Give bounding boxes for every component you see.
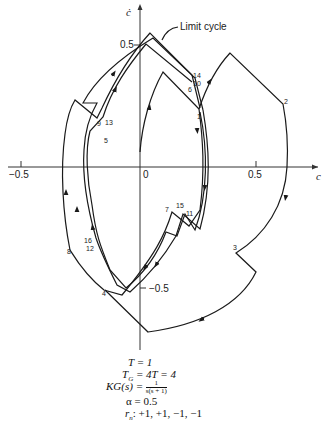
arrow-icon <box>93 227 94 230</box>
callout-leader-line <box>162 27 178 40</box>
point-label-14: 14 <box>193 72 201 79</box>
trajectory-start <box>140 72 199 152</box>
point-label-7: 7 <box>165 206 169 213</box>
y-tick-neg-0-5: −0.5 <box>149 283 169 294</box>
x-tick-neg-0-5: −0.5 <box>9 169 29 180</box>
point-label-2: 2 <box>284 98 288 105</box>
point-label-11: 11 <box>186 210 193 217</box>
y-tick-0-5: 0.5 <box>120 39 134 50</box>
trajectory-cycle-c <box>83 38 208 292</box>
point-label-6: 6 <box>188 86 192 93</box>
param-alpha: α = 0.5 <box>126 395 157 407</box>
y-axis-label: ċ <box>126 6 131 18</box>
param-T: T = 1 <box>128 356 152 368</box>
point-label-5: 5 <box>104 137 108 144</box>
arrow-icon <box>149 107 150 110</box>
x-axis-label: c <box>316 170 321 182</box>
point-label-9: 9 <box>97 120 101 127</box>
arrow-icon <box>112 73 114 76</box>
axes <box>8 4 318 350</box>
y-axis-arrow-icon <box>138 4 143 10</box>
x-axis-arrow-icon <box>312 165 318 170</box>
point-label-1: 1 <box>197 113 201 120</box>
param-KG: KG(s) = 1s(s + 1) <box>106 380 167 395</box>
point-label-10: 10 <box>193 80 201 87</box>
trajectory-limit-cycle <box>87 44 205 288</box>
arrow-icon <box>286 195 287 198</box>
point-label-3: 3 <box>233 244 237 251</box>
x-tick-0-5: 0.5 <box>248 169 262 180</box>
arrow-icon <box>156 262 158 265</box>
point-label-15: 15 <box>176 202 184 209</box>
point-label-4: 4 <box>102 290 106 297</box>
param-rn: rn: +1, +1, −1, −1 <box>125 407 202 424</box>
limit-cycle-label: Limit cycle <box>180 21 227 32</box>
point-label-8: 8 <box>67 248 71 255</box>
x-tick-0: 0 <box>143 169 149 180</box>
point-label-12: 12 <box>86 245 94 252</box>
point-label-13: 13 <box>105 119 113 126</box>
point-label-16: 16 <box>84 237 92 244</box>
